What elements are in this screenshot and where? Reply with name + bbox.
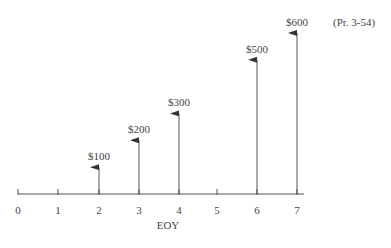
axis-tick-label-1: 1 [55, 204, 61, 216]
cash-flow-diagram: (Pr. 3-54) 01234567 EOY $100$200$300$500… [0, 0, 391, 248]
cash-flow-arrow-eoy-6: $500 [246, 43, 269, 194]
problem-reference: (Pr. 3-54) [333, 16, 376, 29]
axis-tick-label-2: 2 [96, 204, 102, 216]
cash-flow-arrow-eoy-7: $600 [286, 16, 309, 194]
axis-tick-label-7: 7 [294, 204, 300, 216]
axis-tick-labels: 01234567 [15, 204, 300, 216]
axis-tick-label-4: 4 [176, 204, 182, 216]
axis-tick-label-3: 3 [136, 204, 142, 216]
axis-tick-label-5: 5 [214, 204, 220, 216]
cash-flow-amount-label: $200 [128, 123, 151, 135]
cash-flow-arrow-eoy-3: $200 [128, 123, 151, 194]
cash-flow-amount-label: $100 [88, 150, 111, 162]
cash-flow-amount-label: $500 [246, 43, 269, 55]
time-axis: 01234567 EOY [15, 189, 304, 231]
cash-flow-arrows: $100$200$300$500$600 [88, 16, 309, 194]
axis-tick-label-6: 6 [254, 204, 260, 216]
cash-flow-amount-label: $300 [168, 96, 191, 108]
cash-flow-arrow-eoy-2: $100 [88, 150, 111, 194]
cash-flow-amount-label: $600 [286, 16, 309, 28]
cash-flow-arrow-eoy-4: $300 [168, 96, 191, 194]
axis-label-eoy: EOY [157, 219, 180, 231]
axis-tick-label-0: 0 [15, 204, 21, 216]
